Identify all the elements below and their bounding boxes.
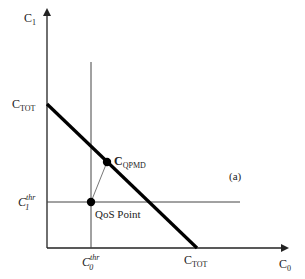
x-axis-label: C0	[279, 257, 291, 273]
panel-label: (a)	[229, 170, 242, 183]
x-intercept-label: CTOT	[184, 253, 208, 269]
qos-to-qpmd-connector	[91, 162, 107, 202]
qos-point-marker	[87, 198, 95, 206]
y-threshold-label: Cthr1	[18, 193, 36, 212]
y-intercept-label: CTOT	[12, 97, 36, 113]
qpmd-point-marker	[103, 158, 111, 166]
y-axis-label: C1	[24, 11, 36, 27]
qpmd-label: CQPMD	[114, 154, 146, 170]
budget-line	[47, 104, 197, 248]
qpmd-diagram: C1 C0 CTOT CTOT Cthr1 Cthr0 CQPMD QoS Po…	[0, 0, 305, 279]
qos-point-label: QoS Point	[95, 208, 141, 220]
x-threshold-label: Cthr0	[82, 253, 100, 272]
